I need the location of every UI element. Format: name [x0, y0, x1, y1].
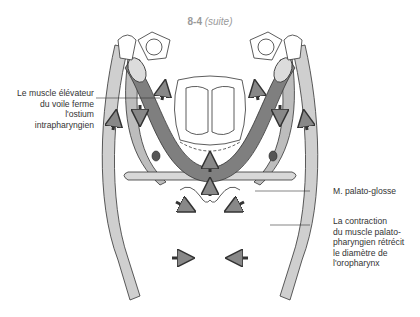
label-text: M. palato-glosse — [333, 186, 396, 196]
label-line: l'oropharynx — [333, 258, 404, 269]
skull-bones — [118, 32, 302, 60]
label-line: du voile ferme — [6, 99, 94, 110]
label-line: intrapharyngien — [6, 120, 94, 131]
palate-muscle-diagram — [0, 0, 420, 317]
label-line: l'ostium — [6, 109, 94, 120]
label-line: du muscle palato- — [333, 227, 404, 238]
label-palatoglossus: M. palato-glosse — [333, 186, 396, 197]
label-line: Le muscle élévateur — [6, 88, 94, 99]
central-body — [174, 76, 245, 151]
label-line: pharyngien rétrécit — [333, 237, 404, 248]
label-levator-veli-palatini: Le muscle élévateur du voile ferme l'ost… — [6, 88, 94, 130]
label-line: le diamètre de — [333, 248, 404, 259]
label-palatopharyngeus: La contraction du muscle palato- pharyng… — [333, 216, 404, 269]
label-line: La contraction — [333, 216, 404, 227]
